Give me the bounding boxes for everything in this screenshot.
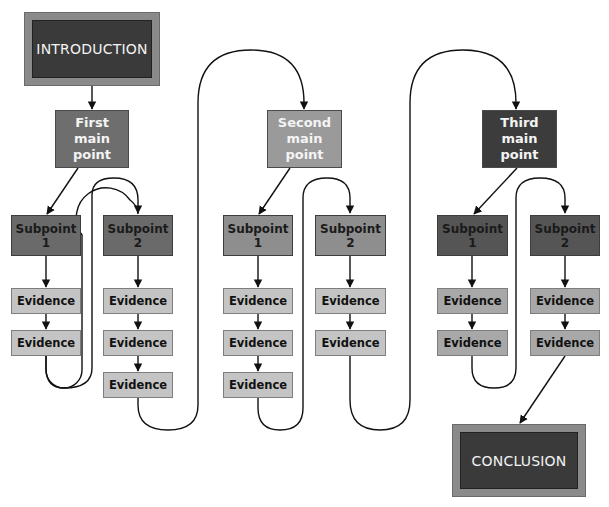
evidence-1-1-1: Evidence: [11, 288, 81, 314]
subpoint-3-1: Subpoint1: [437, 215, 508, 256]
main-point-3-line2: main: [500, 131, 538, 147]
main-point-3-line1: Third: [500, 115, 538, 131]
evidence-3-2-2: Evidence: [530, 330, 600, 356]
evidence-2-1-2: Evidence: [223, 330, 293, 356]
evidence-2-2-1: Evidence: [315, 288, 386, 314]
main-point-1-line3: point: [73, 147, 111, 163]
evidence-1-2-3: Evidence: [103, 372, 173, 398]
subpoint-1-2: Subpoint2: [103, 215, 173, 256]
speech-outline-diagram: INTRODUCTION First main point Second mai…: [0, 0, 609, 507]
evidence-3-1-1: Evidence: [437, 288, 508, 314]
evidence-2-1-3: Evidence: [223, 372, 293, 398]
subpoint-label: Subpoint: [534, 222, 595, 236]
evidence-3-2-1: Evidence: [530, 288, 600, 314]
conclusion-label: CONCLUSION: [460, 432, 578, 489]
subpoint-number: 2: [534, 236, 595, 250]
evidence-1-2-1: Evidence: [103, 288, 173, 314]
introduction-label: INTRODUCTION: [32, 20, 152, 78]
conclusion-box: CONCLUSION: [452, 424, 586, 497]
subpoint-number: 2: [320, 236, 381, 250]
subpoint-1-1: Subpoint1: [11, 215, 81, 256]
evidence-3-1-2: Evidence: [437, 330, 508, 356]
main-point-2: Second main point: [267, 110, 342, 168]
subpoint-number: 1: [227, 236, 288, 250]
subpoint-label: Subpoint: [107, 222, 168, 236]
subpoint-label: Subpoint: [15, 222, 76, 236]
subpoint-2-1: Subpoint1: [223, 215, 293, 256]
subpoint-number: 2: [107, 236, 168, 250]
subpoint-label: Subpoint: [442, 222, 503, 236]
main-point-3-line3: point: [500, 147, 538, 163]
evidence-2-2-2: Evidence: [315, 330, 386, 356]
main-point-3: Third main point: [482, 110, 557, 168]
subpoint-3-2: Subpoint2: [530, 215, 600, 256]
evidence-1-1-2: Evidence: [11, 330, 81, 356]
subpoint-number: 1: [442, 236, 503, 250]
subpoint-label: Subpoint: [320, 222, 381, 236]
main-point-2-line2: main: [278, 131, 331, 147]
main-point-2-line1: Second: [278, 115, 331, 131]
subpoint-2-2: Subpoint2: [315, 215, 386, 256]
evidence-1-2-2: Evidence: [103, 330, 173, 356]
subpoint-label: Subpoint: [227, 222, 288, 236]
main-point-1-line2: main: [73, 131, 111, 147]
introduction-box: INTRODUCTION: [24, 12, 160, 86]
subpoint-number: 1: [15, 236, 76, 250]
main-point-1-line1: First: [73, 115, 111, 131]
main-point-2-line3: point: [278, 147, 331, 163]
evidence-2-1-1: Evidence: [223, 288, 293, 314]
main-point-1: First main point: [55, 110, 129, 168]
